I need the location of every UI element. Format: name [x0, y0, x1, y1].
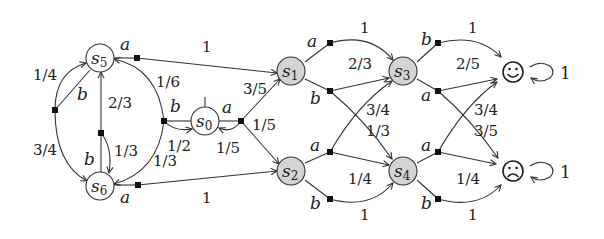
state-s0: s0	[191, 107, 219, 135]
svg-text:a: a	[421, 85, 431, 105]
state-s4: s4	[389, 157, 417, 185]
svg-text:1: 1	[560, 63, 571, 83]
svg-text:b: b	[421, 29, 432, 49]
edge-s2-a-s4	[330, 152, 389, 165]
edge-s6-a-s2	[138, 171, 277, 185]
svg-text:1/3: 1/3	[114, 142, 138, 160]
svg-text:1: 1	[468, 19, 478, 37]
state-s6: s6	[86, 172, 114, 200]
svg-text:1/4: 1/4	[33, 66, 57, 84]
svg-text:3/4: 3/4	[474, 101, 498, 119]
svg-text:1/3: 1/3	[153, 152, 177, 170]
svg-text:1/5: 1/5	[252, 116, 276, 134]
svg-text:1/4: 1/4	[456, 170, 480, 188]
mdp-diagram: s5 s6 s0 s1 s2 s3 s4 a b b	[0, 0, 604, 239]
svg-text:1: 1	[360, 19, 370, 37]
svg-text:1/4: 1/4	[348, 170, 372, 188]
svg-text:a: a	[120, 34, 130, 54]
svg-text:1: 1	[202, 38, 212, 56]
svg-text:2/5: 2/5	[456, 55, 480, 73]
svg-text:a: a	[222, 97, 232, 117]
svg-text:1: 1	[468, 206, 478, 224]
sad-face-icon	[503, 161, 523, 181]
svg-text:1/6: 1/6	[156, 73, 180, 91]
edge-s6-b-s6	[101, 133, 110, 173]
svg-text:1/3: 1/3	[366, 122, 390, 140]
edge-s0-a-s0	[219, 121, 241, 130]
state-s2: s2	[277, 157, 305, 185]
state-s5: s5	[86, 44, 114, 72]
edge-s5-b-s6	[55, 110, 87, 181]
loop-sad	[530, 162, 553, 180]
svg-text:a: a	[307, 31, 317, 51]
state-s3: s3	[389, 57, 417, 85]
svg-text:b: b	[77, 84, 88, 104]
loop-happy	[530, 63, 553, 81]
edge-s0-b-s0	[164, 121, 192, 130]
svg-text:a: a	[120, 187, 130, 207]
edge-s4-a-sad	[438, 152, 496, 164]
svg-text:3/4: 3/4	[366, 101, 390, 119]
svg-text:a: a	[421, 135, 431, 155]
svg-text:1/5: 1/5	[216, 139, 240, 157]
svg-text:1: 1	[560, 162, 571, 182]
svg-text:1: 1	[202, 189, 212, 207]
edge-s5-a-s1	[137, 58, 277, 73]
svg-text:b: b	[310, 88, 321, 108]
svg-text:b: b	[170, 96, 181, 116]
svg-text:3/5: 3/5	[474, 122, 498, 140]
svg-text:a: a	[310, 135, 320, 155]
happy-face-icon	[503, 62, 523, 82]
svg-text:b: b	[84, 149, 95, 169]
svg-text:b: b	[310, 193, 321, 213]
edge-s1-b-s3	[330, 78, 389, 91]
state-s1: s1	[277, 57, 305, 85]
probability-labels: 1 1/4 3/4 2/3 1/3 1/6 1/2 1/3 3/5 1/5 1/…	[33, 19, 571, 224]
svg-text:3/5: 3/5	[243, 80, 267, 98]
svg-text:2/3: 2/3	[348, 55, 372, 73]
svg-text:b: b	[421, 193, 432, 213]
svg-text:1: 1	[360, 206, 370, 224]
svg-text:3/4: 3/4	[33, 141, 57, 159]
svg-text:2/3: 2/3	[108, 94, 132, 112]
